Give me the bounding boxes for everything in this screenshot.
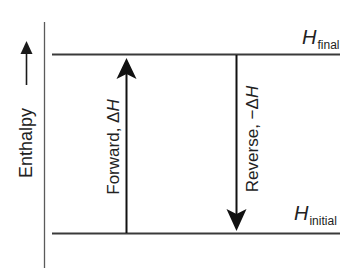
enthalpy-up-arrow-icon: [21, 41, 33, 85]
forward-label-symbol: H: [104, 99, 123, 111]
reverse-label-delta: −Δ: [243, 98, 262, 119]
final-level-label: Hfinal: [302, 27, 339, 47]
initial-level-subscript: initial: [309, 214, 336, 228]
enthalpy-diagram: Enthalpy Forward, ΔH Reverse, −ΔH Hfinal…: [0, 0, 362, 280]
forward-label-delta: Δ: [104, 112, 123, 123]
initial-level-symbol: H: [294, 202, 308, 224]
reverse-arrow-label: Reverse, −ΔH: [244, 86, 261, 192]
enthalpy-axis-text: Enthalpy: [16, 108, 36, 178]
final-level-subscript: final: [317, 38, 339, 52]
reverse-label-prefix: Reverse,: [243, 119, 262, 192]
final-level-symbol: H: [302, 26, 316, 48]
reverse-label-symbol: H: [243, 86, 262, 98]
initial-level-label: Hinitial: [294, 203, 337, 223]
forward-label-prefix: Forward,: [104, 123, 123, 195]
forward-arrow-label: Forward, ΔH: [105, 99, 122, 194]
enthalpy-axis-label: Enthalpy: [17, 108, 35, 178]
